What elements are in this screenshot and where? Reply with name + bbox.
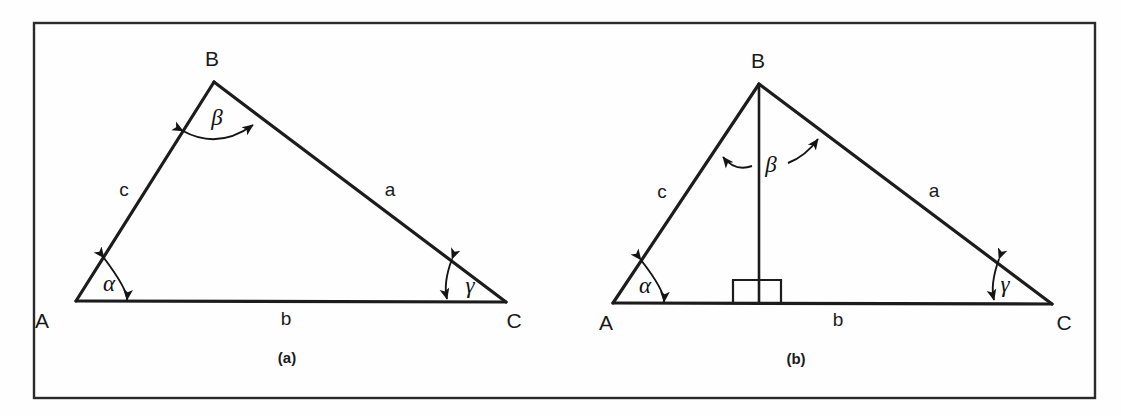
panel-a: A B C c a b α β γ (a)	[35, 47, 522, 366]
panel-a-angle-label-beta: β	[210, 105, 223, 130]
panel-b-angle-label-beta: β	[764, 152, 777, 177]
panel-b: A B C c a b α β γ (b)	[599, 49, 1072, 367]
panel-a-caption: (a)	[278, 349, 296, 366]
panel-b-vertex-label-B: B	[751, 49, 765, 72]
panel-b-side-label-c: c	[657, 181, 667, 202]
panel-a-side-a-line	[214, 82, 506, 302]
panel-a-side-label-c: c	[119, 179, 129, 200]
panel-b-side-label-a: a	[929, 180, 940, 201]
panel-a-side-c-line	[76, 82, 214, 301]
panel-b-angle-beta-arc-left	[723, 157, 752, 168]
figure-container: A B C c a b α β γ (a)	[0, 0, 1121, 416]
panel-a-angle-label-gamma: γ	[465, 273, 475, 298]
panel-a-vertex-label-A: A	[35, 309, 49, 332]
panel-b-side-a-line	[759, 84, 1052, 304]
panel-b-side-b-line	[613, 303, 1052, 304]
panel-a-angle-label-alpha: α	[103, 271, 116, 296]
panel-b-caption: (b)	[786, 350, 805, 367]
panel-a-angle-gamma-arc	[446, 259, 452, 299]
panel-a-vertex-label-B: B	[205, 47, 219, 70]
panel-a-side-label-b: b	[281, 308, 292, 329]
panel-b-angle-beta-arc-right	[788, 139, 818, 163]
panel-b-vertex-label-A: A	[599, 311, 613, 334]
panel-a-side-label-a: a	[385, 179, 396, 200]
panel-b-angle-label-alpha: α	[639, 273, 652, 298]
panel-b-side-label-b: b	[833, 309, 844, 330]
figure-svg: A B C c a b α β γ (a)	[0, 0, 1121, 416]
panel-a-vertex-label-C: C	[506, 309, 521, 332]
figure-frame-border	[34, 23, 1095, 398]
panel-b-right-angle-marker	[733, 280, 781, 303]
panel-a-side-b-line	[76, 301, 506, 302]
panel-b-vertex-label-C: C	[1056, 311, 1071, 334]
panel-b-angle-label-gamma: γ	[1000, 272, 1010, 297]
panel-b-side-c-line	[613, 84, 759, 303]
